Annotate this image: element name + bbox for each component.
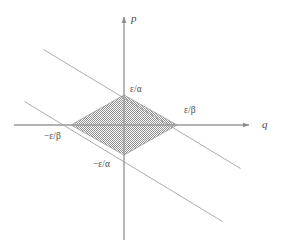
tick-label-negative-eps-over-beta: −ε/β: [44, 132, 61, 142]
x-axis-label-q: q: [262, 119, 268, 130]
tick-label-negative-eps-over-alpha: −ε/α: [93, 160, 110, 170]
tick-label-eps-over-alpha: ε/α: [130, 85, 142, 95]
plot-svg: [0, 0, 283, 248]
upper-constraint-line: [44, 50, 241, 169]
tick-label-eps-over-beta: ε/β: [184, 106, 195, 116]
y-axis-label-p: p: [131, 13, 137, 24]
figure-canvas: p q ε/α ε/β −ε/β −ε/α: [0, 0, 283, 248]
